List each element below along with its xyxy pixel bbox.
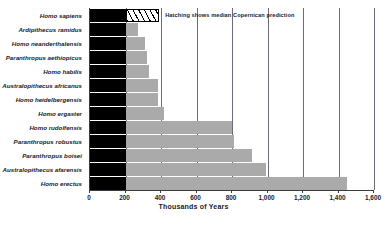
x-tick-label: 200 [119, 194, 130, 201]
x-tick-mark [160, 190, 161, 193]
x-tick-mark [373, 190, 374, 193]
x-tick-label: 400 [155, 194, 166, 201]
y-axis-label: Homo habilis [43, 65, 82, 78]
y-axis-label: Homo ergaster [38, 107, 82, 120]
bar-segment-observed [90, 9, 126, 22]
bar-segment-observed [90, 37, 126, 50]
bar-segment-extension [126, 79, 159, 92]
bar-segment-observed [90, 79, 126, 92]
y-axis-label: Homo erectus [41, 177, 82, 190]
bar-segment-extension [126, 135, 234, 148]
x-tick-label: 600 [190, 194, 201, 201]
x-tick-mark [231, 190, 232, 193]
x-tick-mark [196, 190, 197, 193]
bar-row [90, 177, 347, 190]
y-axis-label: Homo sapiens [40, 9, 82, 22]
bar-segment-observed [90, 149, 126, 162]
bar-row [90, 37, 145, 50]
y-axis-label: Homo rudolfensis [29, 121, 82, 134]
y-axis-label: Australopithecus afarensis [3, 163, 82, 176]
bar-row [90, 23, 138, 36]
bar-row [90, 79, 158, 92]
bar-row [90, 51, 147, 64]
y-axis-label: Homo neanderthalensis [12, 37, 82, 50]
bar-segment-extension [126, 93, 159, 106]
bar-segment-extension [126, 149, 253, 162]
gridline-1600 [374, 8, 375, 190]
plot-area: Hatching shows median Copernican predict… [89, 8, 374, 191]
y-axis-labels: Homo sapiensArdipithecus ramidusHomo nea… [0, 8, 86, 190]
x-tick-mark [125, 190, 126, 193]
y-axis-label: Ardipithecus ramidus [18, 23, 82, 36]
bar-segment-extension [126, 23, 138, 36]
y-axis-label: Paranthropus robustus [14, 135, 82, 148]
bar-segment-hatched-prediction [126, 9, 160, 22]
bar-rows [90, 8, 374, 190]
bar-row [90, 65, 149, 78]
x-tick-label: 800 [226, 194, 237, 201]
bar-chart: Homo sapiensArdipithecus ramidusHomo nea… [0, 0, 387, 230]
x-tick-mark [302, 190, 303, 193]
legend-annotation: Hatching shows median Copernican predict… [165, 12, 294, 18]
y-axis-label: Paranthropus boisei [22, 149, 82, 162]
bar-segment-extension [126, 177, 348, 190]
x-tick-mark [338, 190, 339, 193]
bar-segment-extension [126, 37, 146, 50]
bar-segment-observed [90, 177, 126, 190]
y-axis-label: Homo heidelbergensis [16, 93, 82, 106]
x-tick-label: 1,400 [330, 194, 346, 201]
x-tick-mark [89, 190, 90, 193]
bar-row [90, 163, 266, 176]
x-tick-label: 1,200 [294, 194, 310, 201]
bar-segment-extension [126, 121, 233, 134]
x-axis-title: Thousands of Years [0, 203, 387, 210]
bar-row [90, 121, 232, 134]
bar-row [90, 107, 164, 120]
bar-segment-extension [126, 163, 266, 176]
bar-row [90, 93, 158, 106]
bar-segment-observed [90, 163, 126, 176]
bar-segment-extension [126, 51, 147, 64]
bar-segment-observed [90, 135, 126, 148]
x-axis-ticks: 02004006008001,0001,2001,4001,600 [89, 190, 373, 202]
x-tick-label: 1,600 [365, 194, 381, 201]
bar-row [90, 149, 252, 162]
bar-segment-extension [126, 107, 164, 120]
x-tick-label: 0 [87, 194, 91, 201]
bar-segment-observed [90, 65, 126, 78]
bar-segment-observed [90, 121, 126, 134]
bar-row [90, 135, 234, 148]
y-axis-label: Australopithecus africanus [2, 79, 82, 92]
x-tick-label: 1,000 [259, 194, 275, 201]
y-axis-label: Paranthropus aethiopicus [6, 51, 82, 64]
bar-segment-observed [90, 51, 126, 64]
bar-segment-extension [126, 65, 149, 78]
x-tick-mark [267, 190, 268, 193]
bar-row [90, 9, 159, 22]
bar-segment-observed [90, 23, 126, 36]
bar-segment-observed [90, 93, 126, 106]
bar-segment-observed [90, 107, 126, 120]
